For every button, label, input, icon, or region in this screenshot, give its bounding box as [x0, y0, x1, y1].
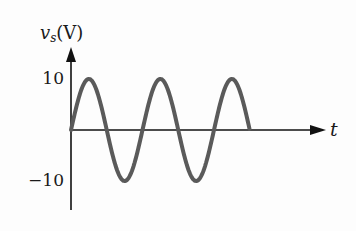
y-axis-label: vs(V)	[40, 22, 83, 45]
tick-neg: −10	[22, 170, 64, 190]
tick-pos: 10	[22, 68, 64, 88]
x-axis-label: t	[330, 118, 338, 140]
y-axis-arrow-icon	[66, 47, 76, 62]
x-axis-arrow-icon	[310, 125, 326, 135]
diagram: vs(V) 10 −10 t	[0, 0, 356, 231]
